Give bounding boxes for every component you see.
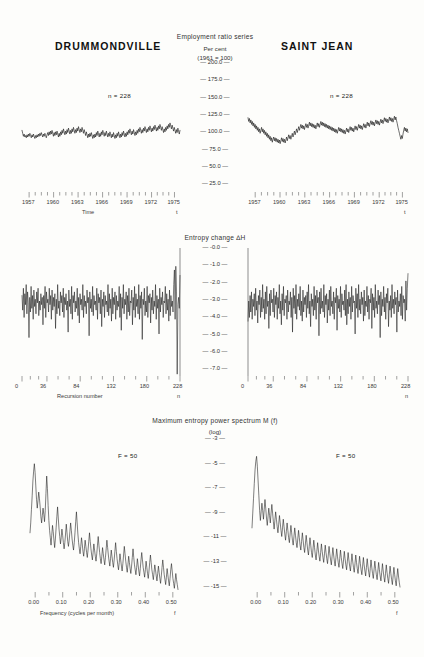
panel1-subtitle-percent: Per cent bbox=[160, 45, 270, 52]
panel3-ytick-0: — -3 — bbox=[185, 436, 245, 442]
panel1-ytick-2: — 150.0 — bbox=[185, 95, 245, 101]
panel3-left-x-axis bbox=[30, 592, 178, 602]
p2-xll-tick-3: 132 bbox=[106, 383, 115, 389]
panel3-left-x-symbol: f bbox=[174, 610, 176, 616]
p2-xrl-tick-2: 84 bbox=[300, 383, 306, 389]
panel1-saintjean-trace bbox=[248, 62, 408, 192]
panel1-title: Employment ratio series bbox=[160, 33, 270, 40]
employment-entropy-spectrum-figure: DRUMMONDVILLE SAINT JEAN Employment rati… bbox=[0, 0, 424, 657]
p1-xrl-tick-4: 1969 bbox=[347, 199, 359, 205]
panel3-right-x-symbol: f bbox=[396, 610, 398, 616]
p1-xrl-tick-6: 1975 bbox=[395, 199, 407, 205]
p3-xll-tick-5: 0.50 bbox=[166, 599, 177, 605]
panel3-ytick-6: — -15 — bbox=[185, 584, 245, 590]
p1-xrl-tick-1: 1960 bbox=[273, 199, 285, 205]
p3-xll-tick-2: 0.20 bbox=[83, 599, 94, 605]
p2-xrl-tick-3: 132 bbox=[334, 383, 343, 389]
panel2-ytick-0: — -0.0 — bbox=[185, 245, 245, 251]
panel1-ytick-0: — 200.0 — bbox=[185, 60, 245, 66]
p2-xrl-tick-1: 36 bbox=[266, 383, 272, 389]
p3-xll-tick-0: 0.00 bbox=[28, 599, 39, 605]
p1-xll-tick-2: 1963 bbox=[71, 199, 83, 205]
p2-xrl-tick-0: 0 bbox=[241, 383, 244, 389]
panel1-right-x-symbol: t bbox=[404, 209, 406, 215]
panel3-ytick-5: — -13 — bbox=[185, 559, 245, 565]
p1-xrl-tick-3: 1966 bbox=[323, 199, 335, 205]
panel2-title: Entropy change ∆H bbox=[160, 234, 270, 241]
p3-xrl-tick-1: 0.10 bbox=[278, 599, 289, 605]
panel3-saintjean-spectrum bbox=[252, 444, 400, 592]
p1-xll-tick-4: 1969 bbox=[120, 199, 132, 205]
panel2-ytick-4: — -4.0 — bbox=[185, 314, 245, 320]
panel3-right-x-axis bbox=[252, 592, 400, 602]
panel1-ytick-3: — 125.0 — bbox=[185, 112, 245, 118]
panel3-ytick-4: — -11 — bbox=[185, 534, 245, 540]
panel3-subtitle-log: (log) bbox=[130, 428, 300, 435]
right-city-title: SAINT JEAN bbox=[281, 40, 353, 52]
p2-xll-tick-1: 36 bbox=[40, 383, 46, 389]
panel2-ytick-5: — -5.0 — bbox=[185, 332, 245, 338]
p3-xrl-tick-2: 0.20 bbox=[305, 599, 316, 605]
panel2-left-x-symbol: n bbox=[177, 393, 180, 399]
panel2-right-x-symbol: n bbox=[405, 393, 408, 399]
panel2-drummondville-trace bbox=[22, 248, 180, 376]
p1-xrl-tick-0: 1957 bbox=[248, 199, 260, 205]
panel1-left-x-label: Time bbox=[82, 209, 94, 215]
panel3-ytick-3: — -9 — bbox=[185, 510, 245, 516]
p3-xll-tick-4: 0.40 bbox=[138, 599, 149, 605]
panel2-ytick-2: — -2.0 — bbox=[185, 280, 245, 286]
panel2-ytick-1: — -1.0 — bbox=[185, 262, 245, 268]
panel1-ytick-7: — 25.0 — bbox=[185, 181, 245, 187]
p2-xll-tick-0: 0 bbox=[15, 383, 18, 389]
panel2-x-label: Recursion number bbox=[57, 393, 103, 399]
panel3-drummondville-spectrum bbox=[30, 444, 178, 592]
p3-xll-tick-3: 0.30 bbox=[111, 599, 122, 605]
p1-xll-tick-0: 1957 bbox=[22, 199, 34, 205]
p2-xrl-tick-5: 228 bbox=[401, 383, 410, 389]
p2-xrl-tick-4: 180 bbox=[367, 383, 376, 389]
p1-xrl-tick-5: 1972 bbox=[372, 199, 384, 205]
panel3-title: Maximum entropy power spectrum M (f) bbox=[130, 417, 300, 424]
panel1-ytick-5: — 75.0 — bbox=[185, 147, 245, 153]
p1-xll-tick-6: 1975 bbox=[167, 199, 179, 205]
panel3-x-label: Frequency (cycles per month) bbox=[40, 610, 114, 616]
p2-xll-tick-2: 84 bbox=[73, 383, 79, 389]
p3-xrl-tick-4: 0.40 bbox=[360, 599, 371, 605]
panel1-ytick-6: — 50.0 — bbox=[185, 164, 245, 170]
panel2-ytick-7: — -7.0 — bbox=[185, 366, 245, 372]
p3-xrl-tick-3: 0.30 bbox=[333, 599, 344, 605]
panel2-ytick-6: — -6.0 — bbox=[185, 349, 245, 355]
p3-xrl-tick-0: 0.00 bbox=[250, 599, 261, 605]
p2-xll-tick-5: 228 bbox=[173, 383, 182, 389]
panel3-ytick-2: — -7 — bbox=[185, 485, 245, 491]
p2-xll-tick-4: 180 bbox=[140, 383, 149, 389]
panel1-ytick-1: — 175.0 — bbox=[185, 77, 245, 83]
p1-xrl-tick-2: 1963 bbox=[298, 199, 310, 205]
panel1-left-x-symbol: t bbox=[176, 209, 178, 215]
p1-xll-tick-3: 1966 bbox=[96, 199, 108, 205]
panel1-drummondville-trace bbox=[22, 62, 180, 192]
p1-xll-tick-1: 1960 bbox=[47, 199, 59, 205]
left-city-title: DRUMMONDVILLE bbox=[55, 40, 161, 52]
panel2-ytick-3: — -3.0 — bbox=[185, 297, 245, 303]
p3-xll-tick-1: 0.10 bbox=[56, 599, 67, 605]
panel2-saintjean-trace bbox=[248, 248, 408, 376]
p3-xrl-tick-5: 0.50 bbox=[388, 599, 399, 605]
panel3-ytick-1: — -5 — bbox=[185, 461, 245, 467]
p1-xll-tick-5: 1972 bbox=[145, 199, 157, 205]
panel1-ytick-4: — 100.0 — bbox=[185, 129, 245, 135]
